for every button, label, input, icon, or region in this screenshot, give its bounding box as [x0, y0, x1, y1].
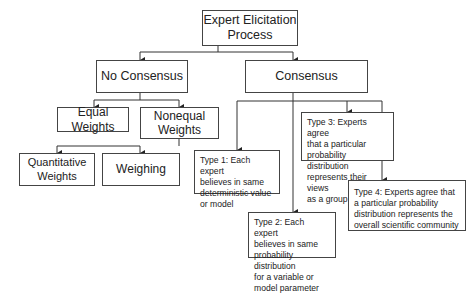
- node-consensus: Consensus: [245, 60, 368, 93]
- root-node-expert-elicitation-process: Expert Elicitation Process: [202, 10, 298, 46]
- node-equal-weights: Equal Weights: [57, 107, 129, 132]
- type2-line: for a variable or: [254, 272, 330, 283]
- type2-line: probability distribution: [254, 250, 330, 272]
- type4-line: overall scientific community: [354, 220, 459, 231]
- type2-line: believes in same: [254, 239, 330, 250]
- node-weighing: Weighing: [102, 153, 180, 186]
- consensus-label: Consensus: [275, 69, 338, 84]
- type1-line: Type 1: Each expert: [200, 155, 274, 177]
- type4-line: Type 4: Experts agree that: [354, 187, 459, 198]
- type4-line: a particular probability: [354, 198, 459, 209]
- weighing-label: Weighing: [116, 162, 166, 176]
- node-type-2: Type 2: Each expert believes in same pro…: [248, 212, 336, 258]
- type1-line: believes in same: [200, 177, 274, 188]
- node-nonequal-weights: Nonequal Weights: [140, 107, 219, 139]
- node-no-consensus: No Consensus: [96, 60, 188, 93]
- type3-line: probability distribution: [307, 150, 388, 172]
- type2-line: model parameter: [254, 283, 330, 294]
- node-quantitative-weights: Quantitative Weights: [19, 153, 95, 186]
- quantitative-label-line2: Weights: [37, 170, 77, 183]
- type1-line: deterministic value: [200, 188, 274, 199]
- nonequal-label-line1: Nonequal: [154, 109, 205, 123]
- type3-line: Type 3: Experts agree: [307, 117, 388, 139]
- quantitative-label-line1: Quantitative: [28, 156, 87, 169]
- type3-line: that a particular: [307, 139, 388, 150]
- type4-line: distribution represents the: [354, 209, 459, 220]
- equal-weights-label: Equal Weights: [58, 105, 128, 134]
- no-consensus-label: No Consensus: [101, 69, 183, 84]
- root-label-line1: Expert Elicitation: [203, 13, 296, 28]
- node-type-3: Type 3: Experts agree that a particular …: [301, 112, 394, 161]
- nonequal-label-line2: Weights: [158, 123, 201, 137]
- type2-line: Type 2: Each expert: [254, 217, 330, 239]
- node-type-1: Type 1: Each expert believes in same det…: [194, 150, 280, 194]
- root-label-line2: Process: [227, 28, 272, 43]
- type1-line: or model: [200, 199, 274, 210]
- node-type-4: Type 4: Experts agree that a particular …: [348, 180, 466, 231]
